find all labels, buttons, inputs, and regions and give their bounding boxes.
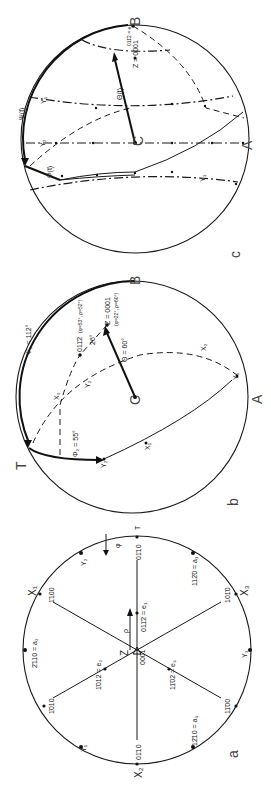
panel-a-label-y3: Y₃ [241,650,248,658]
panel-a-label-0110-bottom: 01̄10 [135,744,142,760]
tick-dot [171,171,173,173]
panel-c-label-z: Z = 0001 [132,40,139,68]
panel-c-phi-segment [25,166,60,180]
panel-c-trajectory [60,112,243,180]
panel-c-psi-arrowhead [21,158,29,166]
panel-b-label-z-coords: (φ=22°, ρ=60°) [113,293,119,326]
panel-b-label-theta: Θ = 60° [121,338,128,362]
tick-dot [126,108,128,110]
panel-a-dot-x2 [135,762,138,765]
tick-dot [95,107,97,109]
panel-a-label-1010-left: 1̄010 [48,698,55,714]
panel-a-label-1100-right: 11̄00 [224,699,231,714]
panel-b-label-c: C [127,395,143,405]
panel-a-label-a2: 2̄110 = a₂ [31,638,38,668]
panel-a-label-y1: Y₁ [80,744,87,752]
panel-a-label-phi: φ [114,543,122,548]
panel-b-label-phi: Φ₂ = 55° [72,430,79,457]
panel-c-label-a: A [239,140,255,150]
panel-b-label-psi: Ψ₂ = 112° [25,324,32,355]
panel-a-phi-arrowhead [103,550,109,556]
panel-b-label-pole-coords: (φ=53°, ρ=52°) [77,300,83,333]
panel-c-theta-arrow [115,60,135,143]
panel-b-pole-dot [78,353,82,357]
panel-a-dot-y2 [79,551,83,555]
panel-c-label-theta: Θ(t) [116,88,124,100]
panel-a-spoke-upper-left [53,602,137,650]
panel-a-dot-x1 [38,592,41,595]
tick-dot [92,142,94,144]
panel-a-dot-a1 [191,551,195,555]
panel-b-label-pole: 011̄2 [76,337,83,352]
panel-c-label-y1: Y₁ [40,96,47,104]
panel-c-label-pole: 011̄2 = e₁ [126,25,132,46]
panel-b-label-x2: X₂ [200,343,207,351]
panel-a-spoke-upper-right [137,602,221,650]
panel-a-dot-t [135,535,138,538]
panel-c-dashed-arc-1 [30,108,130,166]
tick-dot [211,142,213,144]
panel-a-label-center: 0001 [139,649,146,665]
panel-b-label-x1: X₁ [144,442,151,450]
tick-dot [134,172,136,174]
panel-a-label-1100: 1̄100 [48,587,55,603]
tick-dot [96,174,98,176]
panel-a-label-x1: X₁ [27,585,38,596]
panel-a-label-a1: 112̄0 = a₁ [191,556,198,586]
panel-a-label-x3: X₃ [239,585,250,596]
panel-c-label-y2: Y₂ [39,139,46,147]
tick-dot [61,175,63,177]
panel-b-great-circle [104,380,232,459]
panel-b-label-x3: X₃ [53,392,60,400]
tick-dot [204,105,206,107]
panel-a-dot-a2 [23,648,27,652]
panel-a-dot-e2 [103,667,106,670]
panel-b-label-angle: 26° [89,334,96,345]
panel-a-rho-arrowhead [127,608,133,616]
panel-c-panel-label: c [227,251,243,258]
panel-a-label-e2: 1̄012 = e₂ [95,660,102,690]
panel-c-label-c: C [130,136,146,146]
panel-c-label-y3: Y₃ [199,174,206,182]
panel-a-label-1010-right: 101̄0 [224,587,231,603]
panel-b-y2-dot [103,458,106,461]
panel-c-theta-arrowhead [112,52,118,62]
panel-a-label-y2: Y₂ [80,558,87,566]
tick-dot [171,103,173,105]
panel-b-label-a: A [249,394,265,404]
tick-dot [55,142,57,144]
panel-a-dot-x3 [234,592,237,595]
panel-b-theta-arrowhead [103,326,110,336]
panel-a: 0001 Z ρ φ T 01̄10 01̄10 1̄100 1̄010 101… [23,525,252,778]
panel-b: C A B T Ψ₂ = 112° Φ₂ = 55° Θ = 60° Z = 0… [13,276,265,513]
panel-c-meridian-lower [30,177,238,190]
panel-b-phi-arc [29,448,100,460]
panel-b-label-y1: Y₁ [232,372,239,380]
panel-b-label-y2: Y₂ [100,460,107,468]
panel-a-label-a3: 12̄10 = a₃ [191,716,198,746]
panel-c-label-psi: Ψ(t) [18,108,26,120]
panel-a-dot-y3 [248,648,252,652]
panel-a-dot-e1 [135,611,138,614]
panel-a-label-0110-top: 01̄10 [135,544,142,560]
panel-a-label-e1: 011̄2 = e₁ [140,602,147,632]
panel-c-label-b: B [127,17,143,26]
panel-c-label-phi: Φ(t) [46,166,54,178]
panel-a-dot-1010 [42,704,45,707]
panel-b-psi-arrowhead [24,440,32,448]
panel-a-label-t: T [134,525,141,530]
panel-b-panel-label: b [225,498,241,506]
panel-a-spoke-lower-right [137,650,221,698]
panel-a-label-rho: ρ [122,629,130,633]
tick-dot [235,183,237,185]
panel-a-label-e3: 11̄02 = e₃ [169,660,176,690]
panel-a-label-x2: X₂ [133,767,144,778]
panel-a-panel-label: a [225,750,241,758]
figure-canvas: C A B Ψ(t) Φ(t) Θ(t) Z = 0001 011̄2 = e₁… [0,0,271,786]
panel-a-label-z: Z [119,650,130,656]
tick-dot [171,142,173,144]
panel-b-label-b: B [127,276,143,285]
panel-b-label-y2-upper: Y₂ [84,380,91,388]
panel-a-dot-1100 [234,704,237,707]
panel-b-label-t: T [13,461,29,470]
